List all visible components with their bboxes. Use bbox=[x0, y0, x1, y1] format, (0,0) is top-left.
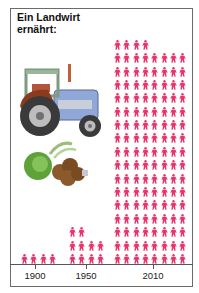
person-icon bbox=[141, 200, 150, 210]
person-icon bbox=[169, 67, 178, 77]
pictogram-row bbox=[113, 210, 187, 223]
person-icon bbox=[132, 147, 141, 157]
person-icon bbox=[169, 93, 178, 103]
person-icon bbox=[178, 67, 187, 77]
person-icon bbox=[169, 214, 178, 224]
person-icon bbox=[141, 93, 150, 103]
person-icon bbox=[159, 80, 168, 90]
person-icon bbox=[150, 227, 159, 237]
person-icon bbox=[122, 254, 131, 264]
x-tick-label: 2010 bbox=[142, 270, 163, 281]
pictogram-row bbox=[113, 77, 187, 90]
person-icon bbox=[159, 227, 168, 237]
person-icon bbox=[113, 67, 122, 77]
person-icon bbox=[159, 120, 168, 130]
person-icon bbox=[77, 227, 86, 237]
person-icon bbox=[122, 107, 131, 117]
pictogram-row bbox=[113, 50, 187, 63]
person-icon bbox=[159, 147, 168, 157]
person-icon bbox=[48, 254, 57, 264]
person-icon bbox=[141, 53, 150, 63]
x-axis bbox=[10, 264, 193, 265]
person-icon bbox=[113, 133, 122, 143]
person-icon bbox=[132, 227, 141, 237]
person-icon bbox=[113, 214, 122, 224]
person-icon bbox=[178, 227, 187, 237]
person-icon bbox=[169, 133, 178, 143]
person-icon bbox=[178, 107, 187, 117]
person-icon bbox=[169, 241, 178, 251]
pictogram-row bbox=[113, 36, 187, 49]
person-icon bbox=[150, 200, 159, 210]
person-icon bbox=[141, 40, 150, 50]
person-icon bbox=[122, 53, 131, 63]
person-icon bbox=[122, 133, 131, 143]
pictogram-row bbox=[113, 197, 187, 210]
person-icon bbox=[122, 40, 131, 50]
person-icon bbox=[150, 93, 159, 103]
x-tick-label: 1900 bbox=[24, 270, 45, 281]
person-icon bbox=[132, 93, 141, 103]
person-icon bbox=[132, 241, 141, 251]
person-icon bbox=[113, 93, 122, 103]
person-icon bbox=[159, 187, 168, 197]
person-icon bbox=[169, 200, 178, 210]
vegetables-icon bbox=[20, 140, 100, 188]
pictogram-row bbox=[113, 103, 187, 116]
person-icon bbox=[113, 160, 122, 170]
person-icon bbox=[159, 241, 168, 251]
pictogram-row bbox=[113, 251, 187, 264]
person-icon bbox=[132, 53, 141, 63]
person-icon bbox=[113, 147, 122, 157]
person-icon bbox=[113, 107, 122, 117]
person-icon bbox=[141, 147, 150, 157]
person-icon bbox=[159, 133, 168, 143]
x-tick bbox=[153, 264, 154, 269]
person-icon bbox=[178, 93, 187, 103]
pictogram-row bbox=[20, 251, 57, 264]
person-icon bbox=[87, 254, 96, 264]
person-icon bbox=[141, 214, 150, 224]
person-icon bbox=[132, 254, 141, 264]
person-icon bbox=[96, 241, 105, 251]
person-icon bbox=[150, 80, 159, 90]
person-icon bbox=[132, 67, 141, 77]
person-icon bbox=[169, 107, 178, 117]
person-icon bbox=[150, 120, 159, 130]
person-icon bbox=[178, 133, 187, 143]
person-icon bbox=[150, 160, 159, 170]
person-icon bbox=[141, 174, 150, 184]
person-icon bbox=[132, 107, 141, 117]
person-icon bbox=[178, 147, 187, 157]
pictogram-row bbox=[113, 170, 187, 183]
person-icon bbox=[77, 241, 86, 251]
person-icon bbox=[132, 120, 141, 130]
person-icon bbox=[159, 107, 168, 117]
person-icon bbox=[122, 120, 131, 130]
person-icon bbox=[122, 187, 131, 197]
person-icon bbox=[178, 241, 187, 251]
pictogram-row bbox=[68, 224, 105, 237]
person-icon bbox=[122, 241, 131, 251]
person-icon bbox=[150, 174, 159, 184]
person-icon bbox=[141, 227, 150, 237]
column-2010 bbox=[113, 36, 187, 264]
person-icon bbox=[150, 241, 159, 251]
person-icon bbox=[122, 93, 131, 103]
person-icon bbox=[141, 107, 150, 117]
person-icon bbox=[141, 254, 150, 264]
tractor-icon bbox=[14, 62, 106, 138]
person-icon bbox=[132, 200, 141, 210]
person-icon bbox=[159, 53, 168, 63]
person-icon bbox=[96, 254, 105, 264]
person-icon bbox=[159, 67, 168, 77]
person-icon bbox=[113, 187, 122, 197]
pictogram-row bbox=[113, 130, 187, 143]
person-icon bbox=[122, 67, 131, 77]
x-tick bbox=[86, 264, 87, 269]
column-1950 bbox=[68, 224, 105, 264]
pictogram-row bbox=[113, 184, 187, 197]
pictogram-row bbox=[113, 237, 187, 250]
person-icon bbox=[169, 187, 178, 197]
person-icon bbox=[178, 214, 187, 224]
